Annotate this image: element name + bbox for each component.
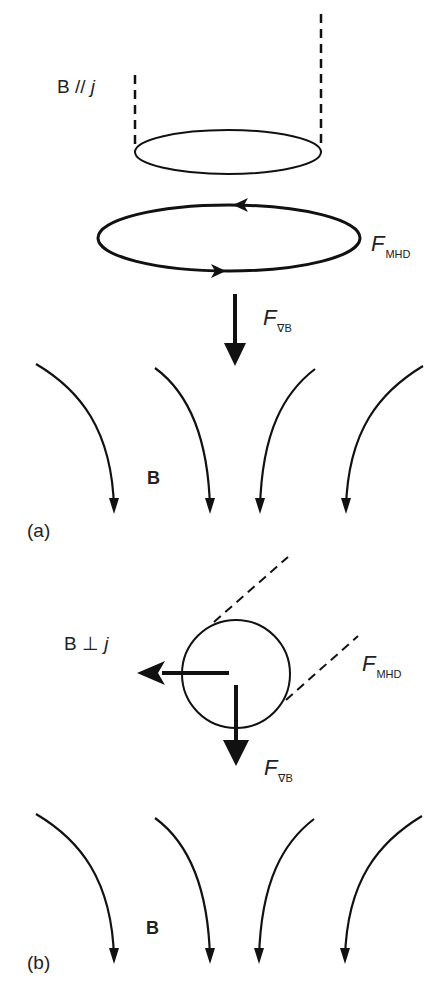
orientation-label-b: B ⊥ j xyxy=(64,634,108,653)
force-subscript: MHD xyxy=(385,248,410,260)
field-line-4 xyxy=(346,366,423,508)
field-arrowhead-2-icon xyxy=(205,498,215,514)
field-arrowhead-b-2-icon xyxy=(205,948,215,964)
orientation-prefix: B ⊥ xyxy=(64,633,104,654)
gradb-force-label-b: F∇B xyxy=(264,757,293,779)
field-line-b-1 xyxy=(36,814,114,958)
orientation-label-a: B // j xyxy=(57,77,95,96)
panel-b xyxy=(36,557,422,964)
force-symbol: F xyxy=(264,755,277,780)
mhd-force-arrowhead-icon xyxy=(137,661,165,685)
field-line-b-3 xyxy=(259,819,314,958)
field-line-b-4 xyxy=(345,816,422,958)
gradb-force-arrowhead-b-icon xyxy=(223,740,249,766)
flux-tube-top-ellipse xyxy=(135,130,321,174)
mhd-force-label-b: FMHD xyxy=(362,653,402,675)
orientation-prefix: B // xyxy=(57,76,91,97)
field-label-a: B xyxy=(147,469,160,487)
field-line-b-2 xyxy=(155,818,210,958)
field-line-1 xyxy=(36,364,114,508)
field-arrowhead-b-1-icon xyxy=(109,948,119,964)
field-arrowhead-4-icon xyxy=(341,498,351,514)
current-symbol: j xyxy=(91,76,95,97)
field-arrowhead-3-icon xyxy=(255,498,265,514)
panel-label-a: (a) xyxy=(27,521,50,540)
force-subscript: ∇B xyxy=(277,322,291,334)
panel-label-b: (b) xyxy=(27,953,50,972)
force-subscript: ∇B xyxy=(278,772,292,784)
gradb-force-label-a: F∇B xyxy=(263,307,292,329)
dashed-tube-lower xyxy=(286,636,358,700)
gradb-force-arrowhead-icon xyxy=(224,343,246,366)
field-arrowhead-b-3-icon xyxy=(254,948,264,964)
mhd-force-label-a: FMHD xyxy=(371,233,411,255)
field-arrowhead-1-icon xyxy=(109,498,119,514)
field-line-3 xyxy=(260,369,315,508)
diagram-canvas xyxy=(0,0,443,993)
field-line-2 xyxy=(155,368,210,508)
current-loop-ellipse xyxy=(98,205,360,271)
force-symbol: F xyxy=(371,231,384,256)
current-symbol: j xyxy=(104,633,108,654)
force-symbol: F xyxy=(263,305,276,330)
force-symbol: F xyxy=(362,651,375,676)
force-subscript: MHD xyxy=(376,668,401,680)
dashed-tube-upper xyxy=(214,557,288,622)
field-arrowhead-b-4-icon xyxy=(340,948,350,964)
field-label-b: B xyxy=(146,919,159,937)
